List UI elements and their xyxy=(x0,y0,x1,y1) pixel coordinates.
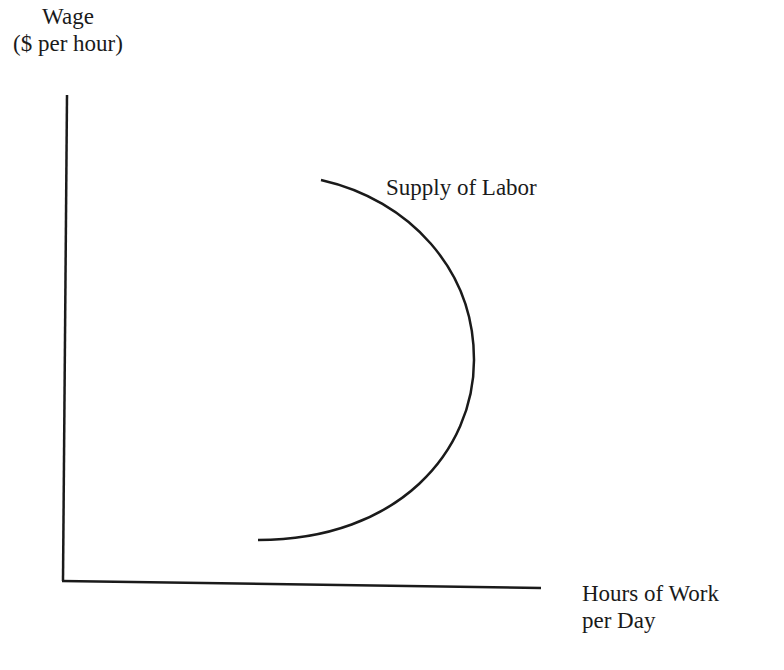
chart-canvas xyxy=(0,0,784,670)
x-axis-label-line2: per Day xyxy=(582,607,719,634)
y-axis xyxy=(63,95,67,581)
x-axis-label: Hours of Work per Day xyxy=(582,580,719,634)
y-axis-label: Wage ($ per hour) xyxy=(0,3,136,57)
x-axis-label-line1: Hours of Work xyxy=(582,580,719,607)
x-axis xyxy=(62,581,541,588)
supply-of-labor-curve xyxy=(258,180,474,540)
y-axis-label-line2: ($ per hour) xyxy=(0,30,136,57)
curve-label: Supply of Labor xyxy=(386,174,537,201)
y-axis-label-line1: Wage xyxy=(0,3,136,30)
